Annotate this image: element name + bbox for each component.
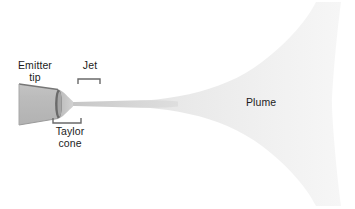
taylor-cone-shape <box>60 90 73 118</box>
emitter-tip-label: Emitter tip <box>6 60 64 83</box>
jet-shape <box>66 100 178 108</box>
diagram-canvas <box>0 0 355 209</box>
emitter-rim-inner <box>58 91 62 116</box>
plume-label: Plume <box>246 97 298 109</box>
electrospray-emitter-figure: Emitter tip Jet Taylor cone Plume <box>0 0 355 209</box>
jet-bracket <box>78 79 100 84</box>
taylor-cone-label: Taylor cone <box>40 126 100 149</box>
emitter-tip-body <box>19 84 58 125</box>
jet-label: Jet <box>74 60 106 72</box>
